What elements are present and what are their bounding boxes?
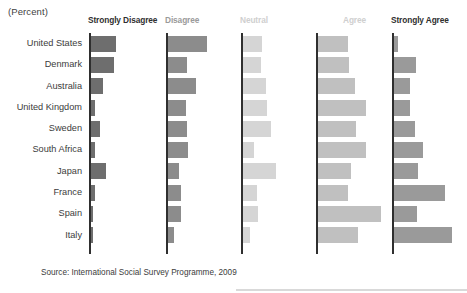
bar: [168, 121, 187, 137]
bar: [243, 227, 251, 243]
bar: [243, 121, 271, 137]
bar-row: [243, 139, 277, 160]
bar-group: [318, 33, 382, 246]
panel-header-strongly-disagree: Strongly Disagree: [88, 15, 157, 25]
bar: [91, 185, 95, 201]
bar-row: [91, 33, 117, 54]
bar: [91, 163, 107, 179]
bar-group: [243, 33, 277, 246]
bar: [91, 57, 115, 73]
bar: [168, 100, 186, 116]
panel-header-strongly-agree: Strongly Agree: [391, 15, 449, 25]
bar-row: [394, 161, 452, 182]
bar-row: [91, 182, 117, 203]
bar: [168, 163, 179, 179]
category-label: Italy: [0, 225, 82, 246]
bar-row: [394, 182, 452, 203]
bar-row: [394, 97, 452, 118]
bar-row: [91, 97, 117, 118]
bar: [318, 121, 356, 137]
bar: [243, 142, 254, 158]
chart-container: (Percent) Strongly DisagreeDisagreeNeutr…: [0, 0, 467, 293]
bar: [394, 163, 419, 179]
bar: [318, 57, 349, 73]
bar-row: [91, 139, 117, 160]
bar: [394, 206, 418, 222]
bar-row: [168, 139, 207, 160]
bar: [243, 57, 261, 73]
bar-row: [243, 54, 277, 75]
bar-row: [91, 225, 117, 246]
bar: [394, 36, 398, 52]
bar-row: [168, 161, 207, 182]
bar: [318, 185, 348, 201]
category-label: South Africa: [0, 139, 82, 160]
bar-row: [318, 118, 382, 139]
bar: [243, 78, 267, 94]
bar-row: [318, 33, 382, 54]
bar: [394, 57, 416, 73]
bar-row: [91, 76, 117, 97]
bar: [318, 142, 366, 158]
category-label: United States: [0, 33, 82, 54]
bar-row: [168, 97, 207, 118]
bar-row: [91, 203, 117, 224]
bar-row: [243, 225, 277, 246]
bar-row: [91, 118, 117, 139]
category-label: Denmark: [0, 54, 82, 75]
bar-row: [168, 182, 207, 203]
bar: [243, 100, 268, 116]
bar-row: [394, 33, 452, 54]
bar: [168, 206, 181, 222]
bar-row: [318, 203, 382, 224]
bar: [168, 227, 175, 243]
panel-header-agree: Agree: [343, 15, 366, 25]
bar: [318, 100, 366, 116]
bar: [318, 36, 348, 52]
bar: [91, 142, 95, 158]
bar-row: [243, 33, 277, 54]
category-label: United Kingdom: [0, 97, 82, 118]
bottom-rule: [236, 289, 467, 291]
bar: [394, 185, 446, 201]
bar: [91, 206, 93, 222]
bar-row: [394, 203, 452, 224]
bar-row: [318, 139, 382, 160]
bar: [394, 121, 415, 137]
bar: [394, 78, 411, 94]
bar-row: [168, 118, 207, 139]
bar-row: [394, 225, 452, 246]
bar-row: [168, 76, 207, 97]
bar: [168, 142, 188, 158]
bar-row: [318, 97, 382, 118]
bar-row: [91, 161, 117, 182]
bar-row: [394, 139, 452, 160]
bar-row: [168, 54, 207, 75]
bar-row: [243, 97, 277, 118]
bar: [318, 163, 352, 179]
source-note: Source: International Social Survey Prog…: [41, 268, 237, 277]
bar: [318, 227, 358, 243]
bar: [243, 36, 262, 52]
bar-group: [394, 33, 452, 246]
unit-label: (Percent): [8, 6, 48, 17]
bar-row: [394, 118, 452, 139]
bar: [318, 78, 355, 94]
bar-row: [243, 76, 277, 97]
category-axis-labels: United StatesDenmarkAustraliaUnited King…: [0, 33, 82, 246]
bar-row: [318, 161, 382, 182]
bar-group: [91, 33, 117, 246]
panel-header-neutral: Neutral: [240, 15, 268, 25]
bar: [91, 36, 117, 52]
bar: [394, 142, 423, 158]
bar: [243, 163, 277, 179]
bar: [243, 185, 258, 201]
bar: [91, 100, 95, 116]
bar-row: [243, 118, 277, 139]
bar: [394, 227, 452, 243]
bar: [91, 78, 103, 94]
bar-row: [168, 203, 207, 224]
category-label: Spain: [0, 203, 82, 224]
bar: [243, 206, 259, 222]
bar: [168, 57, 187, 73]
